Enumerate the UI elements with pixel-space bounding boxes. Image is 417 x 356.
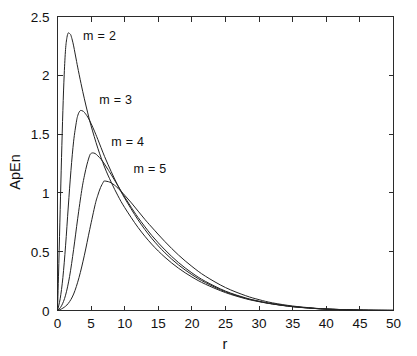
series-annotation: m = 3 [99,93,132,107]
series-annotation: m = 5 [133,162,166,176]
x-tick-label: 0 [54,316,62,331]
x-tick-label: 20 [184,316,199,331]
x-tick-label: 40 [319,316,334,331]
y-tick-label: 0.5 [31,245,50,260]
series-annotation: m = 2 [83,29,116,43]
apen-vs-r-line-chart: 0510152025303540455000.511.522.5 m = 2m … [0,0,417,356]
series-annotation: m = 4 [111,135,144,149]
y-axis-title: ApEn [7,154,23,189]
x-tick-label: 25 [218,316,233,331]
x-tick-label: 5 [87,316,95,331]
y-tick-label: 0 [42,304,50,319]
x-tick-label: 45 [352,316,367,331]
series-curve-m4 [58,153,394,311]
series-curve-m2 [58,33,394,311]
x-axis-title: r [223,336,228,352]
x-tick-label: 15 [151,316,166,331]
y-tick-label: 1 [42,186,50,201]
data-series-curves [58,33,394,311]
x-tick-label: 30 [252,316,267,331]
x-tick-label: 50 [386,316,401,331]
series-curve-m3 [58,110,394,310]
y-tick-label: 2 [42,68,50,83]
y-tick-label: 1.5 [31,127,50,142]
chart-figure: 0510152025303540455000.511.522.5 m = 2m … [0,0,417,356]
x-tick-label: 10 [117,316,132,331]
y-tick-label: 2.5 [31,10,50,25]
x-tick-label: 35 [285,316,300,331]
